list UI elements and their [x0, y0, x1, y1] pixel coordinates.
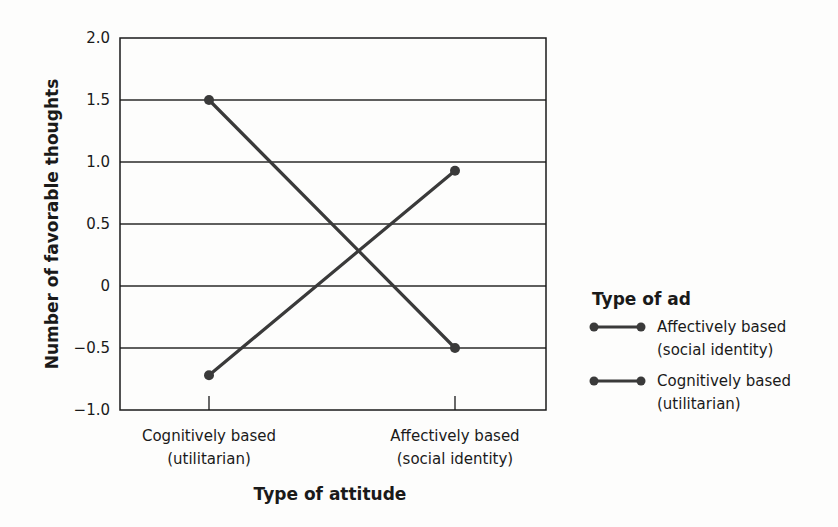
y-tick-label: −1.0 — [74, 401, 110, 419]
y-tick-label: 1.5 — [86, 91, 110, 109]
y-tick-label: −0.5 — [74, 339, 110, 357]
legend-marker-icon — [590, 377, 599, 386]
series-line — [209, 171, 455, 376]
data-point-marker-icon — [450, 343, 460, 353]
legend-label-line2: (social identity) — [657, 341, 773, 359]
legend-item-cognitive: Cognitively based (utilitarian) — [590, 372, 792, 413]
legend-title: Type of ad — [592, 289, 691, 309]
data-point-marker-icon — [204, 95, 214, 105]
x-category-label-line1: Cognitively based — [142, 427, 276, 445]
data-series — [204, 95, 460, 380]
y-axis-tick-labels: 2.01.51.00.50−0.5−1.0 — [74, 29, 110, 419]
x-category-label-line2: (utilitarian) — [167, 450, 251, 468]
x-axis-category-labels: Cognitively based(utilitarian)Affectivel… — [142, 427, 520, 468]
legend-marker-icon — [590, 323, 599, 332]
y-axis-title: Number of favorable thoughts — [42, 79, 62, 370]
x-axis-title: Type of attitude — [254, 484, 407, 504]
x-axis-ticks — [209, 396, 455, 410]
y-tick-label: 0.5 — [86, 215, 110, 233]
legend-label-line1: Affectively based — [657, 318, 786, 336]
legend-label-line2: (utilitarian) — [657, 395, 741, 413]
legend: Type of ad Affectively based (social ide… — [590, 289, 792, 413]
y-tick-label: 0 — [100, 277, 110, 295]
data-point-marker-icon — [204, 370, 214, 380]
y-tick-label: 2.0 — [86, 29, 110, 47]
legend-marker-icon — [637, 377, 646, 386]
y-tick-label: 1.0 — [86, 153, 110, 171]
x-category-label-line2: (social identity) — [397, 450, 513, 468]
line-chart: 2.01.51.00.50−0.5−1.0 Cognitively based(… — [0, 0, 838, 527]
legend-item-affective: Affectively based (social identity) — [590, 318, 787, 359]
legend-marker-icon — [637, 323, 646, 332]
x-category-label-line1: Affectively based — [390, 427, 519, 445]
legend-label-line1: Cognitively based — [657, 372, 791, 390]
data-point-marker-icon — [450, 166, 460, 176]
